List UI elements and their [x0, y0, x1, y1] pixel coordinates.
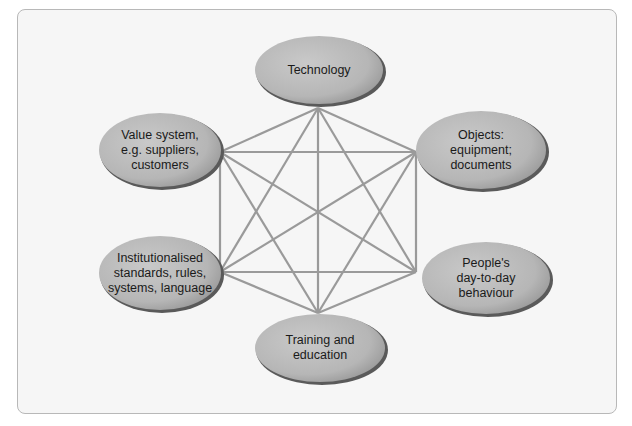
- edge-peoples-behaviour-training: [318, 272, 416, 313]
- node-label-value-system: Value system, e.g. suppliers, customers: [98, 112, 222, 188]
- node-label-peoples-behaviour: People's day-to-day behaviour: [421, 241, 551, 315]
- edge-training-institutionalised: [220, 272, 318, 313]
- edge-objects-training: [318, 152, 416, 313]
- connection-lines: [220, 108, 416, 313]
- edge-technology-objects: [318, 108, 416, 152]
- edge-training-value-system: [220, 152, 318, 313]
- node-label-institutionalised: Institutionalised standards, rules, syst…: [98, 235, 222, 311]
- edge-technology-peoples-behaviour: [318, 108, 416, 272]
- node-label-technology: Technology: [254, 35, 384, 105]
- edge-technology-value-system: [220, 108, 318, 152]
- node-label-objects: Objects: equipment; documents: [415, 110, 547, 190]
- edge-technology-institutionalised: [220, 108, 318, 272]
- node-label-training: Training and education: [254, 313, 386, 383]
